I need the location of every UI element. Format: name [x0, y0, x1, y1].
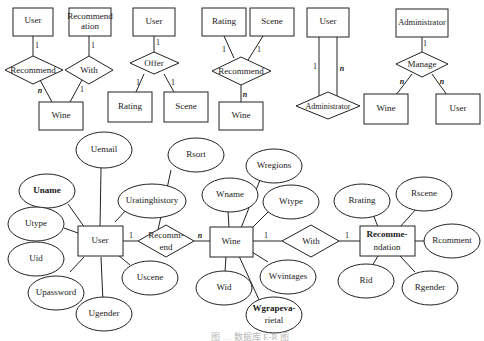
relationship-with-label: With [80, 65, 98, 75]
cardinality-1: 1 [423, 39, 427, 48]
sub-diagram-administrator-manage: Administrator Manage Wine User 1 n n [364, 9, 480, 124]
entity-user-label: User [450, 103, 467, 113]
sub-diagram-user-offer: User Offer Rating Scene 1 1 1 [108, 8, 208, 122]
entity-user-label: User [92, 235, 109, 245]
cardinality-1: 1 [345, 231, 349, 240]
main-er-diagram: Uemail Uname Uratinghistory Utype Uid Up… [8, 132, 480, 333]
er-diagram-canvas: User Recommend ation Recommend With Wine… [0, 0, 484, 341]
cardinality-1: 1 [222, 45, 226, 54]
cardinality-n: n [243, 90, 248, 99]
entity-rating-label: Rating [212, 16, 236, 26]
attribute-rcomment-label: Rcomment [432, 235, 472, 245]
attribute-rrating-label: Rrating [349, 195, 376, 205]
attribute-uid-label: Uid [29, 253, 43, 263]
cardinality-1: 1 [129, 231, 133, 240]
entity-recommendation-label-1: Recomme- [367, 229, 408, 239]
entity-wine-label: Wine [221, 236, 240, 246]
cardinality-1: 1 [264, 231, 268, 240]
attribute-wvintages-label: Wvintages [269, 271, 308, 281]
entity-user-label: User [320, 16, 337, 26]
attribute-ugender-label: Ugender [89, 308, 120, 318]
attribute-wname-label: Wname [216, 189, 244, 199]
cardinality-1: 1 [156, 38, 160, 47]
relationship-manage-label: Manage [408, 59, 437, 69]
entity-rating-label: Rating [118, 101, 142, 111]
cardinality-n: n [340, 64, 345, 73]
figure-caption: 图 … 数据库 E-R 图 [211, 331, 289, 341]
attribute-uscene-label: Uscene [137, 272, 164, 282]
attribute-uemail-label: Uemail [91, 144, 118, 154]
attribute-wregions-label: Wregions [257, 160, 292, 170]
attribute-rgender-label: Rgender [415, 282, 446, 292]
entity-recommendation-label-2: ndation [374, 242, 401, 252]
relationship-recommend-label-2: end [160, 242, 173, 252]
relationship-offer-label: Offer [144, 58, 163, 68]
cardinality-1: 1 [35, 41, 39, 50]
sub-diagram-user-administrator: User Administrator 1 n [296, 8, 360, 119]
entity-wine-label: Wine [51, 110, 70, 120]
attribute-rid-label: Rid [359, 275, 373, 285]
cardinality-n: n [440, 77, 445, 86]
attribute-upassword-label: Upassword [36, 287, 77, 297]
attribute-utype-label: Utype [25, 218, 47, 228]
entity-administrator-label: Administrator [398, 17, 446, 27]
relationship-recommend-label-1: Recomm- [148, 230, 184, 240]
entity-recommendation-label-2: ation [81, 21, 99, 31]
cardinality-n: n [38, 86, 43, 95]
entity-user-label: User [25, 15, 42, 25]
cardinality-n: n [400, 77, 405, 86]
cardinality-n: n [198, 231, 203, 240]
sub-diagram-user-recommend-wine: User Recommend ation Recommend With Wine… [5, 8, 113, 130]
attribute-wgrapevarietal-label-2: rietal [265, 315, 284, 325]
cardinality-1: 1 [80, 85, 84, 94]
cardinality-1: 1 [136, 78, 140, 87]
attribute-wtype-label: Wtype [279, 196, 303, 206]
cardinality-1: 1 [171, 78, 175, 87]
relationship-recommend-label: Recommend [218, 66, 264, 76]
entity-wine-label: Wine [231, 110, 250, 120]
attribute-uname-label: Uname [33, 185, 61, 195]
entity-user-label: User [146, 16, 163, 26]
attribute-wgrapevarietal-label-1: Wgrapeva- [253, 303, 296, 313]
attribute-uratinghistory-label: Uratinghistory [126, 195, 179, 205]
relationship-administrator-label: Administrator [306, 102, 351, 111]
cardinality-1: 1 [91, 41, 95, 50]
attribute-rsort-label: Rsort [186, 149, 206, 159]
cardinality-1: 1 [313, 62, 317, 71]
cardinality-1: 1 [257, 45, 261, 54]
entity-wine-label: Wine [376, 103, 395, 113]
relationship-with-label: With [302, 236, 320, 246]
attribute-wid-label: Wid [216, 282, 232, 292]
sub-diagram-rating-scene-recommend: Rating Scene Recommend Wine 1 1 n [202, 8, 294, 130]
entity-recommendation-label-1: Recommend [67, 11, 113, 21]
relationship-recommend-label: Recommend [10, 65, 56, 75]
entity-scene-label: Scene [261, 16, 283, 26]
entity-scene-label: Scene [175, 101, 197, 111]
attribute-rscene-label: Rscene [411, 188, 437, 198]
